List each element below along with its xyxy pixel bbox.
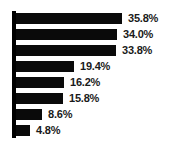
bar-value-label-7: 8.6% (42, 109, 72, 120)
bar-row: 34.0% (16, 27, 179, 43)
bar-value-label-8: 4.8% (30, 125, 60, 136)
bar-1 (16, 13, 122, 24)
bar-value-label-5: 16.2% (64, 77, 100, 88)
bar-row: 35.8% (16, 11, 179, 27)
bar-3 (16, 45, 116, 56)
bar-value-label-6: 15.8% (63, 93, 99, 104)
bar-row: 15.8% (16, 90, 179, 106)
bar-2 (16, 29, 117, 40)
bar-row: 33.8% (16, 43, 179, 59)
bar-row: 4.8% (16, 122, 179, 138)
bar-5 (16, 77, 64, 88)
bar-6 (16, 93, 63, 104)
bar-7 (16, 109, 42, 120)
bars-area: 35.8% 34.0% 33.8% 19.4% 16.2% 15.8% 8.6% (16, 11, 179, 138)
bar-chart: 35.8% 34.0% 33.8% 19.4% 16.2% 15.8% 8.6% (0, 0, 179, 149)
bar-value-label-2: 34.0% (117, 29, 153, 40)
bar-row: 19.4% (16, 59, 179, 75)
bar-value-label-1: 35.8% (122, 13, 158, 24)
bar-row: 8.6% (16, 106, 179, 122)
bar-8 (16, 125, 30, 136)
bar-row: 16.2% (16, 75, 179, 91)
bar-value-label-3: 33.8% (116, 45, 152, 56)
bar-value-label-4: 19.4% (74, 61, 110, 72)
bar-4 (16, 61, 74, 72)
